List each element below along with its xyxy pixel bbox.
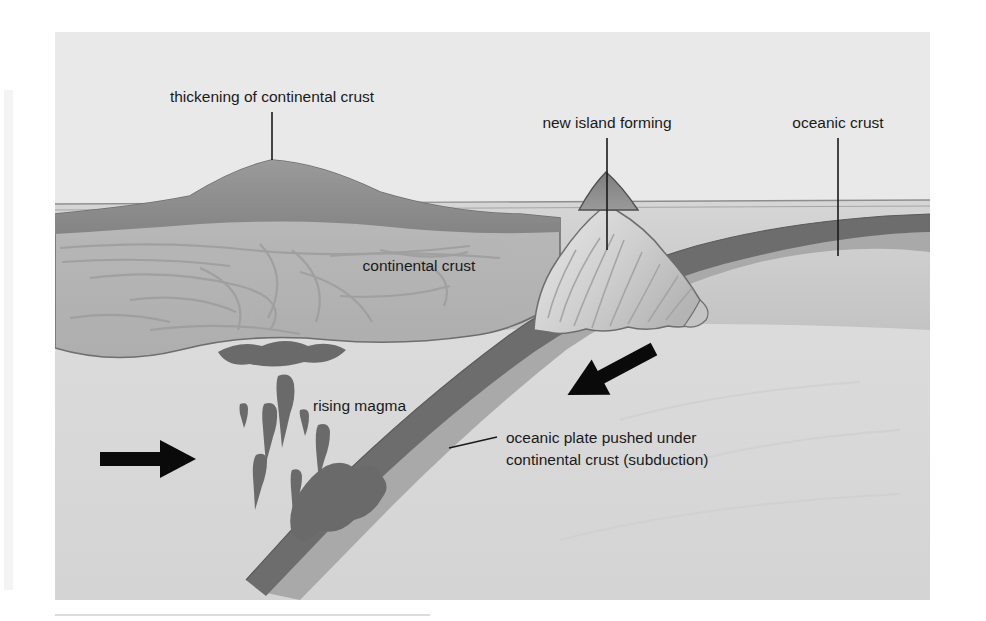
label-continental-crust: continental crust [363, 257, 477, 274]
label-subduction-line1: oceanic plate pushed under [506, 429, 696, 446]
figure-canvas: thickening of continental crust new isla… [0, 0, 986, 621]
cross-section-illustration: thickening of continental crust new isla… [0, 0, 986, 621]
label-oceanic-crust: oceanic crust [792, 114, 884, 131]
label-rising-magma: rising magma [313, 397, 406, 414]
label-new-island-forming: new island forming [542, 114, 671, 131]
scan-edge-artifact [4, 90, 13, 590]
label-thickening-of-continental-crust: thickening of continental crust [170, 88, 375, 105]
label-subduction-line2: continental crust (subduction) [506, 451, 708, 468]
